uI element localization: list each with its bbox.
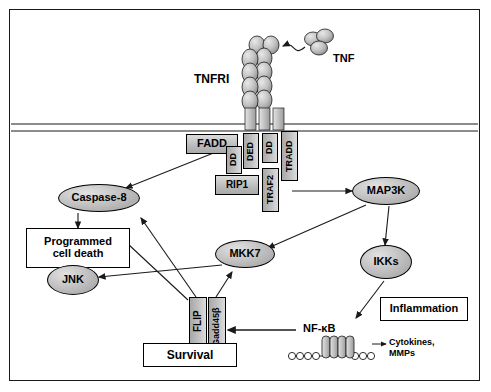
node-map3k-label: MAP3K (367, 185, 406, 197)
node-tradd[interactable]: TRADD (281, 131, 298, 181)
arrow-flip-to-caspase8 (141, 218, 196, 297)
node-survival-label: Survival (167, 349, 214, 362)
node-fadd-label: FADD (197, 138, 227, 150)
node-dd-tradd[interactable]: DD (262, 133, 278, 163)
node-tradd-label: TRADD (285, 140, 294, 172)
node-inflammation[interactable]: Inflammation (380, 297, 468, 321)
arrow-gadd45b-to-mkk7 (216, 272, 232, 297)
node-gadd45b-label: Gadd45β (212, 308, 221, 347)
node-ded-label: DED (246, 142, 255, 161)
node-rip1-label: RIP1 (226, 180, 248, 191)
node-inflammation-label: Inflammation (390, 303, 458, 315)
node-caspase8-label: Caspase-8 (71, 192, 126, 204)
dna-strand-icon (288, 336, 375, 360)
programmed-cell-death-line2: cell death (53, 248, 104, 260)
node-rip1[interactable]: RIP1 (215, 175, 259, 195)
arrow-map3k-to-mkk7 (268, 205, 366, 248)
arrow-map3k-to-ikks (385, 206, 389, 245)
node-traf2-label: TRAF2 (266, 176, 275, 205)
plasma-membrane (11, 124, 478, 131)
cytokines-line1: Cytokines, (389, 337, 435, 347)
node-jnk[interactable]: JNK (47, 265, 99, 295)
node-dd-tradd-label: DD (265, 142, 274, 155)
tnf-binding-arrow (283, 45, 305, 51)
node-dd-fadd-label: DD (229, 154, 238, 167)
node-caspase8[interactable]: Caspase-8 (58, 184, 140, 212)
node-map3k[interactable]: MAP3K (352, 177, 420, 205)
node-survival[interactable]: Survival (143, 343, 237, 367)
tnfri-label: TNFRI (194, 72, 229, 86)
node-mkk7[interactable]: MKK7 (215, 240, 275, 268)
node-ded[interactable]: DED (243, 133, 259, 169)
node-programmed-cell-death[interactable]: Programmed cell death (26, 228, 130, 268)
node-mkk7-label: MKK7 (229, 248, 260, 260)
tnf-ligand-icon (305, 29, 334, 55)
cytokines-line2: MMPs (389, 348, 415, 358)
node-traf2[interactable]: TRAF2 (262, 168, 279, 212)
node-ikks-label: IKKs (373, 256, 398, 268)
arrow-fadd-to-caspase8 (126, 152, 216, 188)
tnfri-receptor-icon (242, 36, 284, 130)
tnf-label: TNF (333, 52, 354, 64)
node-jnk-label: JNK (62, 274, 84, 286)
node-nfkb-label: NF-κB (303, 322, 335, 334)
node-flip-label: FLIP (193, 310, 204, 332)
node-flip[interactable]: FLIP (189, 297, 207, 345)
node-ikks[interactable]: IKKs (360, 245, 412, 279)
figure-canvas: TNF TNFRI FADD DED DD DD TRADD RIP1 TRAF… (0, 0, 491, 392)
node-dd-fadd[interactable]: DD (226, 146, 242, 174)
